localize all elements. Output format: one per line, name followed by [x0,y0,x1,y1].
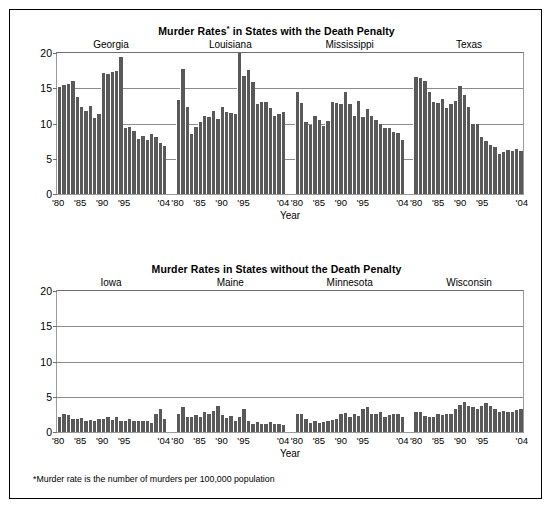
panel-label-wisconsin: Wisconsin [414,276,524,290]
x-axis-tick-label: '90 [454,196,466,210]
chart-top-x-axis: '80'85'90'95'04'80'85'90'95'04'80'85'90'… [56,195,524,211]
bar-series-minnesota [295,291,405,432]
x-axis-tick-label: '90 [96,196,108,210]
chart-top-panel-labels: GeorgiaLouisianaMississippiTexas [56,38,524,52]
bar [281,112,285,194]
x-axis-tick-label: '90 [215,434,227,448]
x-axis-tick-label: '80 [171,434,183,448]
y-axis-tick-label: 10 [40,118,52,129]
chart-bottom-plot-area: 05101520 [56,290,524,433]
x-axis-tick-label: '85 [432,196,444,210]
bar-series-mississippi [295,53,405,194]
x-axis-tick-label: '85 [74,196,86,210]
y-axis-tick-label: 20 [40,286,52,297]
chart-bottom-panel-labels: IowaMaineMinnesotaWisconsin [56,276,524,290]
x-axis-tick-label: '80 [52,196,64,210]
y-axis-tick-label: 5 [46,154,52,165]
x-axis-tick-label: '95 [237,196,249,210]
x-axis-tick-label: '90 [335,434,347,448]
bar-series-iowa [57,291,167,432]
x-axis-tick-label: '80 [410,196,422,210]
chart-top-x-axis-label: Year [56,210,524,221]
panel-label-louisiana: Louisiana [175,38,285,52]
x-axis-tick-label: '95 [357,196,369,210]
panel-louisiana [176,53,286,194]
x-axis-tick-label: '04 [158,434,170,448]
figure-frame: Murder Rates* in States with the Death P… [9,9,542,499]
panel-label-minnesota: Minnesota [295,276,405,290]
y-axis-tick-label: 20 [40,48,52,59]
bar [518,151,522,194]
panel-minnesota [295,291,405,432]
bar-series-georgia [57,53,167,194]
chart-no-death-penalty-states: Murder Rates in States without the Death… [10,262,543,459]
footnote: *Murder rate is the number of murders pe… [33,474,275,484]
panel-label-mississippi: Mississippi [295,38,405,52]
x-axis-tick-label: '04 [277,434,289,448]
panel-texas [413,53,523,194]
x-axis-tick-label: '95 [118,196,130,210]
x-axis-tick-label: '04 [396,196,408,210]
panel-georgia [57,53,167,194]
x-axis-tick-label: '85 [313,196,325,210]
bar [281,425,285,432]
panel-iowa [57,291,167,432]
bar [518,409,522,432]
x-axis-tick-label: '95 [476,434,488,448]
x-axis-tick-label: '90 [454,434,466,448]
bar-series-louisiana [176,53,286,194]
x-axis-tick-label: '80 [410,434,422,448]
x-axis-tick-label: '85 [193,434,205,448]
panel-label-georgia: Georgia [56,38,166,52]
x-axis-tick-label: '90 [215,196,227,210]
y-axis-tick-label: 5 [46,392,52,403]
x-axis-tick-label: '95 [118,434,130,448]
x-axis-tick-label: '04 [516,434,528,448]
panel-wisconsin [413,291,523,432]
x-axis-tick-label: '85 [313,434,325,448]
x-axis-tick-label: '95 [237,434,249,448]
x-axis-tick-label: '90 [335,196,347,210]
bar [400,417,404,433]
bar [162,146,166,194]
chart-bottom-x-axis: '80'85'90'95'04'80'85'90'95'04'80'85'90'… [56,433,524,449]
panel-maine [176,291,286,432]
x-axis-tick-label: '85 [193,196,205,210]
x-axis-tick-label: '85 [74,434,86,448]
y-axis-tick-label: 10 [40,356,52,367]
x-axis-tick-label: '80 [291,434,303,448]
y-axis-tick-label: 15 [40,321,52,332]
x-axis-tick-label: '95 [476,196,488,210]
chart-top-title: Murder Rates* in States with the Death P… [10,24,543,38]
bar-series-wisconsin [413,291,523,432]
bar-series-texas [413,53,523,194]
chart-top-plot-area: 05101520 [56,52,524,195]
x-axis-tick-label: '80 [171,196,183,210]
x-axis-tick-label: '04 [277,196,289,210]
chart-bottom-title: Murder Rates in States without the Death… [10,262,543,276]
bar [400,140,404,194]
bar-series-maine [176,291,286,432]
chart-top-title-main: Murder Rates [158,25,226,37]
panel-label-maine: Maine [175,276,285,290]
bar [162,419,166,432]
chart-bottom-title-main: Murder Rates in States without the Death… [152,263,402,275]
y-axis-tick-label: 15 [40,83,52,94]
x-axis-tick-label: '95 [357,434,369,448]
x-axis-tick-label: '80 [291,196,303,210]
x-axis-tick-label: '04 [396,434,408,448]
x-axis-tick-label: '04 [158,196,170,210]
panel-label-texas: Texas [414,38,524,52]
x-axis-tick-label: '85 [432,434,444,448]
panel-label-iowa: Iowa [56,276,166,290]
chart-death-penalty-states: Murder Rates* in States with the Death P… [10,24,543,221]
x-axis-tick-label: '04 [516,196,528,210]
x-axis-tick-label: '90 [96,434,108,448]
x-axis-tick-label: '80 [52,434,64,448]
chart-bottom-x-axis-label: Year [56,448,524,459]
panel-mississippi [295,53,405,194]
chart-top-title-rest: in States with the Death Penalty [230,25,395,37]
